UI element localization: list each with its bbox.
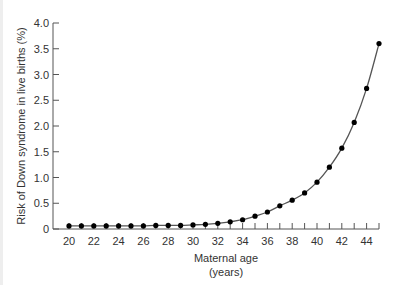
data-point: [364, 86, 369, 91]
data-point: [277, 203, 282, 208]
data-point: [290, 198, 295, 203]
data-point: [314, 180, 319, 185]
data-point: [66, 223, 71, 228]
data-point: [376, 41, 381, 46]
data-point: [91, 223, 96, 228]
x-tick-label: 34: [236, 235, 248, 247]
x-tick-label: 22: [88, 235, 100, 247]
risk-chart: 00.51.01.52.02.53.03.54.0202224262830323…: [0, 0, 399, 285]
x-tick-label: 42: [336, 235, 348, 247]
x-tick-label: 40: [311, 235, 323, 247]
data-point: [79, 223, 84, 228]
y-tick-label: 2.0: [34, 120, 49, 132]
y-tick-label: 2.5: [34, 94, 49, 106]
y-tick-label: 3.0: [34, 69, 49, 81]
x-axis-subtitle: (years): [209, 266, 243, 278]
x-tick-label: 30: [187, 235, 199, 247]
data-point: [153, 223, 158, 228]
x-tick-label: 20: [63, 235, 75, 247]
x-tick-label: 32: [212, 235, 224, 247]
y-tick-label: 4.0: [34, 17, 49, 29]
data-point: [228, 219, 233, 224]
data-point: [116, 223, 121, 228]
data-point: [128, 223, 133, 228]
data-point: [141, 223, 146, 228]
data-point: [327, 165, 332, 170]
data-point: [240, 217, 245, 222]
data-point: [203, 222, 208, 227]
x-tick-label: 44: [360, 235, 372, 247]
data-point: [190, 222, 195, 227]
data-point: [352, 120, 357, 125]
data-point: [178, 223, 183, 228]
x-tick-label: 38: [286, 235, 298, 247]
x-tick-label: 24: [112, 235, 124, 247]
y-tick-label: 0.5: [34, 197, 49, 209]
risk-curve: [69, 44, 379, 226]
data-point: [302, 190, 307, 195]
x-tick-label: 28: [162, 235, 174, 247]
x-axis-title: Maternal age: [194, 252, 258, 264]
data-point: [339, 146, 344, 151]
data-point: [252, 214, 257, 219]
y-tick-label: 0: [43, 223, 49, 235]
data-point: [166, 223, 171, 228]
data-point: [265, 209, 270, 214]
y-tick-label: 3.5: [34, 43, 49, 55]
x-tick-label: 36: [261, 235, 273, 247]
y-tick-label: 1.5: [34, 146, 49, 158]
y-axis-title: Risk of Down syndrome in live births (%): [15, 27, 27, 224]
data-point: [104, 223, 109, 228]
y-tick-label: 1.0: [34, 172, 49, 184]
x-tick-label: 26: [137, 235, 149, 247]
data-point: [215, 221, 220, 226]
